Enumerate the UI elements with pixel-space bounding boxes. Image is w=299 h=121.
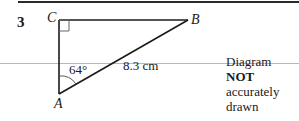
right-angle-marker (59, 20, 69, 31)
side-AB-hypotenuse (59, 20, 188, 94)
vertex-label-A: A (54, 96, 63, 112)
vertex-label-B: B (191, 12, 200, 28)
note-emphasis: NOT (226, 69, 254, 84)
side-length-label: 8.3 cm (123, 58, 158, 74)
note-line-2: accurately drawn (226, 84, 299, 114)
triangle-outline (59, 20, 188, 94)
note-prefix: Diagram (226, 54, 271, 69)
not-to-scale-note: Diagram NOT accurately drawn (226, 54, 299, 114)
vertex-label-C: C (47, 10, 56, 26)
angle-label: 64° (69, 62, 87, 78)
note-line-1: Diagram NOT (226, 54, 299, 84)
